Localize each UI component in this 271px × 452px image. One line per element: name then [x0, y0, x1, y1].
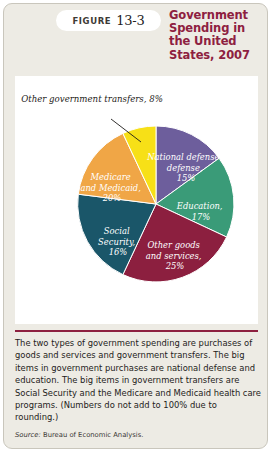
source-text: Bureau of Economic Analysis. — [43, 431, 143, 439]
figure-caption: The two types of government spending are… — [15, 337, 261, 424]
figure-header: FIGURE 13-3 Government Spending in the U… — [4, 4, 268, 76]
figure-number: 13-3 — [116, 13, 144, 28]
page-title: Government Spending in the United States… — [169, 9, 265, 62]
figure-label-word: FIGURE — [72, 16, 111, 26]
figure-source: Source: Bureau of Economic Analysis. — [15, 431, 261, 440]
figure-number-tab: FIGURE 13-3 — [56, 10, 161, 31]
chart-panel: National defense, defense, 15% Education… — [15, 76, 258, 324]
pie-chart: National defense, defense, 15% Education… — [15, 76, 258, 324]
caption-divider — [15, 330, 258, 332]
figure-card: FIGURE 13-3 Government Spending in the U… — [3, 3, 268, 449]
callout-other-government-transfers: Other government transfers, 8% — [21, 94, 163, 105]
source-label: Source: — [15, 431, 41, 439]
